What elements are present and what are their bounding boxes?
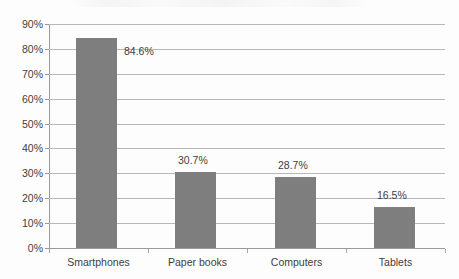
y-tick-label-0: 0% bbox=[0, 243, 43, 254]
bar-label-computers: 28.7% bbox=[278, 160, 308, 171]
y-tick-label-50: 50% bbox=[0, 118, 43, 129]
category-tick-0 bbox=[49, 249, 50, 253]
category-tick-1 bbox=[148, 249, 149, 253]
bar-label-smartphones: 84.6% bbox=[124, 46, 154, 57]
y-tick-label-20: 20% bbox=[0, 193, 43, 204]
bar-label-paper-books: 30.7% bbox=[178, 155, 208, 166]
bar-computers[interactable] bbox=[275, 177, 316, 248]
y-tick-label-80: 80% bbox=[0, 43, 43, 54]
category-label-smartphones: Smartphones bbox=[67, 256, 129, 268]
bar-label-tablets: 16.5% bbox=[377, 190, 407, 201]
category-tick-3 bbox=[346, 249, 347, 253]
bar-tablets[interactable] bbox=[374, 207, 415, 248]
bar-chart: 90% 80% 70% 60% 50% 40% 30% 20% 10% 0% 8… bbox=[0, 0, 459, 279]
y-tick-label-30: 30% bbox=[0, 168, 43, 179]
y-tick-label-10: 10% bbox=[0, 218, 43, 229]
category-tick-2 bbox=[247, 249, 248, 253]
category-tick-4 bbox=[445, 249, 446, 253]
category-label-paper-books: Paper books bbox=[168, 256, 227, 268]
category-label-computers: Computers bbox=[271, 256, 322, 268]
scan-artifact bbox=[70, 0, 370, 7]
bar-smartphones[interactable] bbox=[76, 38, 117, 249]
y-tick-label-70: 70% bbox=[0, 68, 43, 79]
y-tick-label-40: 40% bbox=[0, 143, 43, 154]
category-label-tablets: Tablets bbox=[379, 256, 412, 268]
gridline-90 bbox=[49, 24, 445, 25]
y-tick-label-90: 90% bbox=[0, 19, 43, 30]
plot-area: 84.6% 30.7% 28.7% 16.5% bbox=[49, 24, 445, 248]
bar-paper-books[interactable] bbox=[175, 172, 216, 248]
y-tick-label-60: 60% bbox=[0, 93, 43, 104]
